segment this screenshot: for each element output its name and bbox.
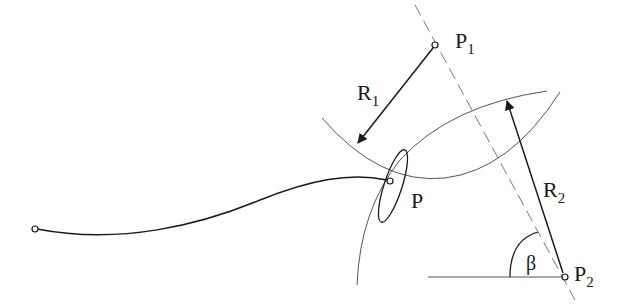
label-r1: R1 [357, 80, 379, 109]
point-p [387, 178, 393, 184]
label-p: P [411, 188, 423, 213]
point-start [32, 226, 38, 232]
label-p1: P1 [455, 28, 475, 57]
dashed-line-p1-p2 [415, 5, 575, 300]
trajectory-curve [37, 177, 387, 235]
label-r2: R2 [543, 177, 565, 206]
diagram-canvas: P1 R1 P R2 β P2 [0, 0, 635, 304]
label-p2: P2 [574, 261, 594, 290]
point-p2 [562, 274, 568, 280]
arc-r2 [357, 91, 547, 285]
point-p1 [432, 42, 438, 48]
label-beta: β [526, 252, 536, 275]
error-ellipse [373, 147, 414, 225]
